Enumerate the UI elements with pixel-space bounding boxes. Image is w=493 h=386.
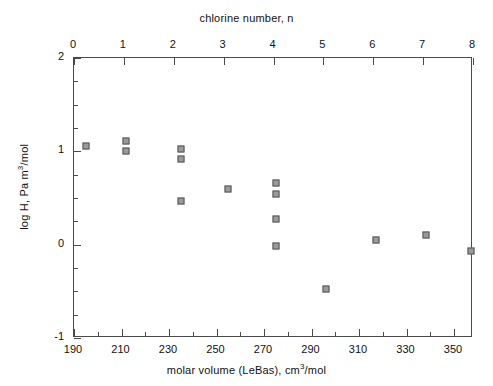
y-axis-tick-label: 0 [33, 237, 64, 249]
y-axis-tick-label: 2 [33, 50, 64, 62]
x-axis-tick-label: 330 [386, 343, 426, 355]
y-axis-minor-tick [74, 128, 78, 129]
x-axis-minor-tick [98, 332, 99, 336]
x-axis-minor-tick [383, 332, 384, 336]
y-axis-title-suffix: /mol [18, 144, 30, 166]
top-axis-tick-label: 8 [452, 38, 492, 50]
y-axis-minor-tick [74, 105, 78, 106]
y-axis-title-exponent: 3 [16, 165, 25, 170]
x-axis-major-tick [454, 329, 455, 336]
data-point [422, 232, 429, 239]
top-axis-tick-label: 5 [302, 38, 342, 50]
plot-area [73, 57, 472, 337]
x-axis-minor-tick [193, 332, 194, 336]
data-point [177, 146, 184, 153]
top-axis-major-tick [373, 58, 374, 65]
y-axis-minor-tick [74, 268, 78, 269]
x-axis-tick-label: 190 [53, 343, 93, 355]
data-point [177, 155, 184, 162]
top-axis-tick-label: 3 [203, 38, 243, 50]
x-axis-minor-tick [335, 332, 336, 336]
data-point [322, 286, 329, 293]
y-axis-minor-tick [74, 221, 78, 222]
x-axis-tick-label: 270 [243, 343, 283, 355]
top-axis-major-tick [174, 58, 175, 65]
data-point [123, 148, 130, 155]
x-axis-title: molar volume (LeBas), cm3/mol [0, 362, 493, 376]
x-axis-tick-label: 350 [433, 343, 473, 355]
top-axis-major-tick [473, 58, 474, 65]
top-axis-major-tick [274, 58, 275, 65]
x-axis-major-tick [264, 329, 265, 336]
x-axis-title-prefix: molar volume (LeBas), cm [167, 364, 300, 376]
x-axis-tick-label: 290 [291, 343, 331, 355]
x-axis-minor-tick [430, 332, 431, 336]
top-axis-tick-label: 1 [103, 38, 143, 50]
y-axis-major-tick [74, 151, 81, 152]
data-point [177, 197, 184, 204]
y-axis-major-tick [74, 245, 81, 246]
top-axis-major-tick [323, 58, 324, 65]
y-axis-tick-label: -1 [33, 330, 64, 342]
x-axis-tick-label: 250 [196, 343, 236, 355]
data-point [82, 142, 89, 149]
top-axis-tick-label: 2 [153, 38, 193, 50]
x-axis-major-tick [169, 329, 170, 336]
top-axis-tick-label: 6 [352, 38, 392, 50]
top-axis-major-tick [423, 58, 424, 65]
y-axis-minor-tick [74, 81, 78, 82]
top-axis-major-tick [74, 58, 75, 65]
x-axis-minor-tick [240, 332, 241, 336]
y-axis-minor-tick [74, 175, 78, 176]
x-axis-major-tick [74, 329, 75, 336]
data-point [225, 185, 232, 192]
x-axis-tick-label: 230 [148, 343, 188, 355]
y-axis-major-tick [74, 338, 81, 339]
x-axis-major-tick [359, 329, 360, 336]
top-axis-title: chlorine number, n [0, 12, 493, 24]
x-axis-major-tick [407, 329, 408, 336]
chart-figure: chlorine number, n log H, Pa m3/mol mola… [0, 0, 493, 386]
x-axis-major-tick [122, 329, 123, 336]
x-axis-major-tick [312, 329, 313, 336]
x-axis-tick-label: 210 [101, 343, 141, 355]
y-axis-minor-tick [74, 315, 78, 316]
data-point [272, 242, 279, 249]
data-point [467, 248, 474, 255]
y-axis-title: log H, Pa m3/mol [16, 122, 30, 252]
y-axis-tick-label: 1 [33, 143, 64, 155]
y-axis-minor-tick [74, 291, 78, 292]
x-axis-major-tick [217, 329, 218, 336]
top-axis-tick-label: 7 [402, 38, 442, 50]
top-axis-major-tick [124, 58, 125, 65]
top-axis-major-tick [224, 58, 225, 65]
y-axis-major-tick [74, 58, 81, 59]
data-point [272, 180, 279, 187]
data-point [272, 215, 279, 222]
x-axis-minor-tick [288, 332, 289, 336]
y-axis-minor-tick [74, 198, 78, 199]
data-point [272, 191, 279, 198]
data-point [123, 138, 130, 145]
x-axis-tick-label: 310 [338, 343, 378, 355]
x-axis-title-suffix: /mol [305, 364, 327, 376]
top-axis-tick-label: 0 [53, 38, 93, 50]
top-axis-tick-label: 4 [253, 38, 293, 50]
data-point [372, 237, 379, 244]
x-axis-minor-tick [145, 332, 146, 336]
y-axis-title-prefix: log H, Pa m [18, 170, 30, 230]
